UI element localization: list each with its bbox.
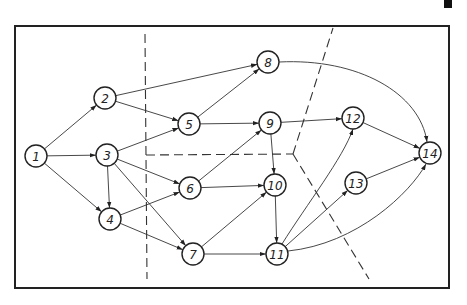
edge-3-to-5 [117, 128, 178, 151]
node-5: 5 [178, 113, 200, 135]
node-8: 8 [257, 51, 279, 73]
network-diagram: 1234567891011121314 [0, 0, 467, 305]
edge-3-to-4 [108, 166, 110, 208]
edge-4-to-7 [120, 223, 183, 249]
edge-5-to-9 [200, 123, 259, 124]
node-1: 1 [25, 145, 47, 167]
node-12: 12 [342, 107, 364, 129]
node-label: 7 [189, 248, 197, 262]
node-6: 6 [179, 177, 201, 199]
edge-12-to-14 [363, 123, 420, 149]
node-3: 3 [96, 144, 118, 166]
node-14: 14 [419, 142, 441, 164]
edge-1-to-4 [44, 163, 101, 212]
edge-2-to-5 [116, 101, 179, 120]
node-label: 11 [269, 248, 284, 262]
node-label: 10 [267, 179, 283, 193]
edge-9-to-12 [281, 119, 342, 123]
node-7: 7 [182, 243, 204, 265]
node-label: 3 [103, 149, 111, 163]
edge-10-to-11 [275, 196, 276, 243]
node-2: 2 [94, 87, 116, 109]
edge-2-to-8 [116, 64, 258, 95]
node-4: 4 [99, 208, 121, 230]
edge-4-to-6 [120, 192, 179, 215]
edge-3-to-6 [117, 159, 180, 184]
node-label: 14 [422, 147, 437, 161]
edge-5-to-8 [198, 69, 260, 117]
edge-1-to-2 [44, 105, 96, 149]
node-label: 4 [106, 213, 114, 227]
edge-3-to-7 [114, 163, 186, 245]
edge-6-to-9 [199, 130, 262, 181]
edge-6-to-10 [201, 185, 264, 187]
node-label: 8 [264, 56, 272, 70]
node-label: 9 [266, 117, 274, 131]
node-11: 11 [266, 243, 288, 265]
edge-1-to-3 [47, 155, 96, 156]
node-9: 9 [259, 112, 281, 134]
node-10: 10 [264, 174, 286, 196]
corner-mark [444, 0, 452, 8]
nodes: 1234567891011121314 [25, 51, 441, 265]
edge-7-to-10 [201, 192, 266, 247]
node-label: 13 [348, 177, 363, 191]
node-label: 2 [101, 92, 109, 106]
node-label: 1 [32, 150, 40, 164]
node-label: 6 [186, 182, 194, 196]
node-13: 13 [345, 172, 367, 194]
node-label: 12 [345, 112, 360, 126]
edge-13-to-14 [366, 157, 420, 179]
diagram-frame [15, 26, 449, 288]
node-label: 5 [185, 118, 193, 132]
edge-11-to-12 [282, 129, 353, 244]
